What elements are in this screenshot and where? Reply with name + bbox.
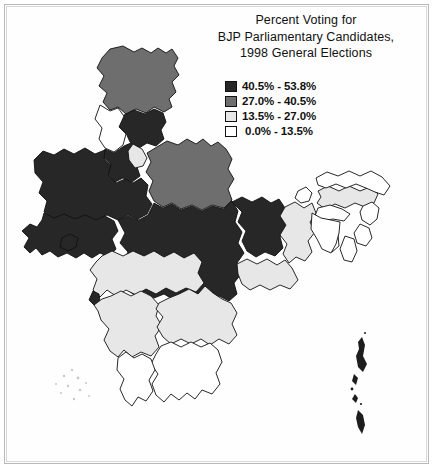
legend-swatch-icon: [225, 111, 237, 122]
area-himachal-pradesh: [119, 109, 166, 148]
legend-item: 27.0% - 40.5%: [225, 94, 316, 108]
area-jammu-and-kashmir: [97, 46, 179, 114]
legend-item: 13.5% - 27.0%: [225, 109, 316, 123]
map-legend: 40.5% - 53.8% 27.0% - 40.5% 13.5% - 27.0…: [225, 79, 316, 139]
title-line-2: BJP Parliamentary Candidates,: [188, 29, 424, 46]
area-sikkim: [295, 187, 312, 203]
map-title: Percent Voting for BJP Parliamentary Can…: [188, 12, 424, 62]
area-west-bengal: [280, 202, 316, 263]
legend-label: 27.0% - 40.5%: [242, 95, 316, 107]
legend-swatch-icon: [225, 126, 237, 137]
legend-item: 0.0% - 13.5%: [225, 124, 316, 138]
area-mizoram: [340, 236, 357, 262]
area-kerala: [117, 352, 155, 406]
map-figure: Percent Voting for BJP Parliamentary Can…: [0, 0, 435, 470]
legend-label: 40.5% - 53.8%: [242, 80, 316, 92]
area-andaman-and-nicobar-islands: [351, 332, 367, 434]
area-uttar-pradesh: [146, 139, 234, 210]
area-odisha: [237, 259, 298, 290]
title-line-1: Percent Voting for: [188, 12, 424, 29]
area-karnataka: [94, 291, 162, 357]
legend-label: 0.0% - 13.5%: [242, 125, 313, 137]
legend-label: 13.5% - 27.0%: [242, 110, 316, 122]
legend-item: 40.5% - 53.8%: [225, 79, 316, 93]
area-gujarat: [22, 213, 118, 258]
india-choropleth-map: [6, 6, 427, 462]
legend-swatch-icon: [225, 96, 237, 107]
legend-swatch-icon: [225, 81, 237, 92]
area-manipur: [354, 224, 372, 246]
area-tamil-nadu: [151, 342, 222, 402]
title-line-3: 1998 General Elections: [188, 45, 424, 62]
area-lakshadweep: [55, 369, 90, 400]
